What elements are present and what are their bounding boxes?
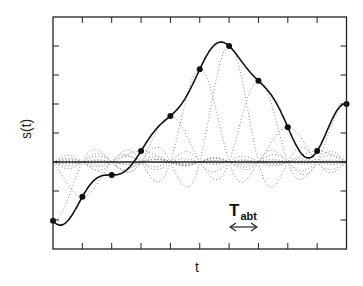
sample-point (255, 78, 261, 84)
sample-point (226, 43, 232, 49)
tabt-arrow (230, 223, 257, 231)
sinc-component (53, 149, 347, 221)
sample-point (197, 66, 203, 72)
tabt-subscript: abt (240, 210, 257, 222)
y-axis-label: s(t) (16, 119, 38, 139)
sample-point (167, 113, 173, 119)
axis-ticks (53, 17, 347, 249)
sinc-component (53, 127, 347, 169)
sample-markers (50, 43, 350, 224)
sinc-component (53, 104, 347, 175)
sample-point (138, 148, 144, 154)
sample-point (285, 124, 291, 130)
plot-frame (53, 17, 347, 249)
sinc-component (53, 81, 347, 180)
sample-point (79, 194, 85, 200)
sinc-component (53, 155, 347, 197)
sampling-period-label: Tabt (229, 201, 257, 221)
sample-point (109, 172, 115, 178)
sample-point (314, 148, 320, 154)
x-axis-label: t (195, 259, 199, 275)
sinc-component (53, 116, 347, 172)
tabt-main: T (229, 201, 239, 220)
sinc-component (53, 69, 347, 182)
sinc-interpolation-chart (0, 0, 363, 286)
sinc-components (53, 46, 347, 221)
